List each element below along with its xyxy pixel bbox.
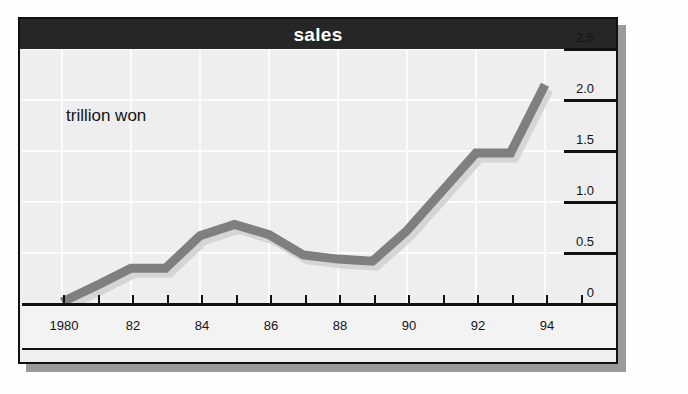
- y-axis: 00.51.01.52.02.5: [538, 49, 616, 332]
- x-axis-label: 84: [195, 319, 209, 332]
- sales-line-series: [22, 49, 600, 332]
- plot-area: trillion won: [22, 49, 600, 332]
- y-axis-tick: [564, 201, 616, 204]
- y-axis-tick: [564, 99, 616, 102]
- chart-screenshot: sales trillion won 00.51.01.52.02.5 1980…: [0, 0, 688, 394]
- x-axis-tick: [63, 295, 65, 304]
- x-axis-tick: [305, 295, 307, 304]
- x-axis-tick: [270, 295, 272, 304]
- x-axis-tick: [132, 295, 134, 304]
- y-axis-label: 0.5: [576, 235, 594, 248]
- x-axis-label: 82: [126, 319, 140, 332]
- x-axis-tick: [201, 295, 203, 304]
- x-axis-label: 92: [471, 319, 485, 332]
- x-axis-tick: [546, 295, 548, 304]
- y-axis-tick: [564, 150, 616, 153]
- x-axis-tick: [98, 295, 100, 304]
- y-axis-label: 2.5: [576, 31, 594, 44]
- x-axis-label: 90: [402, 319, 416, 332]
- x-axis-tick: [512, 295, 514, 304]
- page-title: sales: [293, 25, 342, 44]
- x-axis: 198082848688909294: [22, 303, 616, 350]
- x-axis-tick: [236, 295, 238, 304]
- x-axis-tick: [443, 295, 445, 304]
- x-axis-tick: [374, 295, 376, 304]
- x-axis-label: 86: [264, 319, 278, 332]
- y-axis-label: 1.5: [576, 133, 594, 146]
- x-axis-tick: [477, 295, 479, 304]
- x-axis-tick: [408, 295, 410, 304]
- y-axis-tick: [564, 252, 616, 255]
- chart-body: trillion won 00.51.01.52.02.5 1980828486…: [20, 49, 616, 362]
- x-axis-tick: [581, 295, 583, 304]
- y-axis-label: 0: [587, 286, 594, 299]
- x-axis-tick: [339, 295, 341, 304]
- x-axis-tick: [167, 295, 169, 304]
- y-axis-label: 1.0: [576, 184, 594, 197]
- chart-title-bar: sales: [20, 19, 616, 49]
- y-axis-tick: [564, 48, 616, 51]
- y-axis-label: 2.0: [576, 82, 594, 95]
- x-axis-label: 88: [333, 319, 347, 332]
- x-axis-label: 1980: [50, 319, 79, 332]
- x-axis-label: 94: [540, 319, 554, 332]
- chart-panel: sales trillion won 00.51.01.52.02.5 1980…: [18, 17, 618, 364]
